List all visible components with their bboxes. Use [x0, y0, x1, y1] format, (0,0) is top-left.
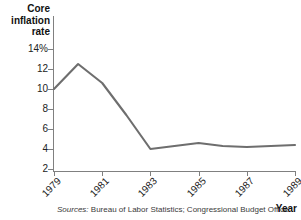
x-axis-caption: Year	[276, 203, 297, 215]
chart-container: Core inflation rate 14%12108642 19791981…	[0, 0, 301, 220]
sources-note: Sources: Bureau of Labor Statistics; Con…	[57, 205, 291, 215]
sources-body: Bureau of Labor Statistics; Congressiona…	[89, 205, 291, 214]
plot-area	[0, 0, 301, 220]
sources-label: Sources:	[57, 205, 89, 214]
inflation-line-series	[54, 64, 295, 149]
